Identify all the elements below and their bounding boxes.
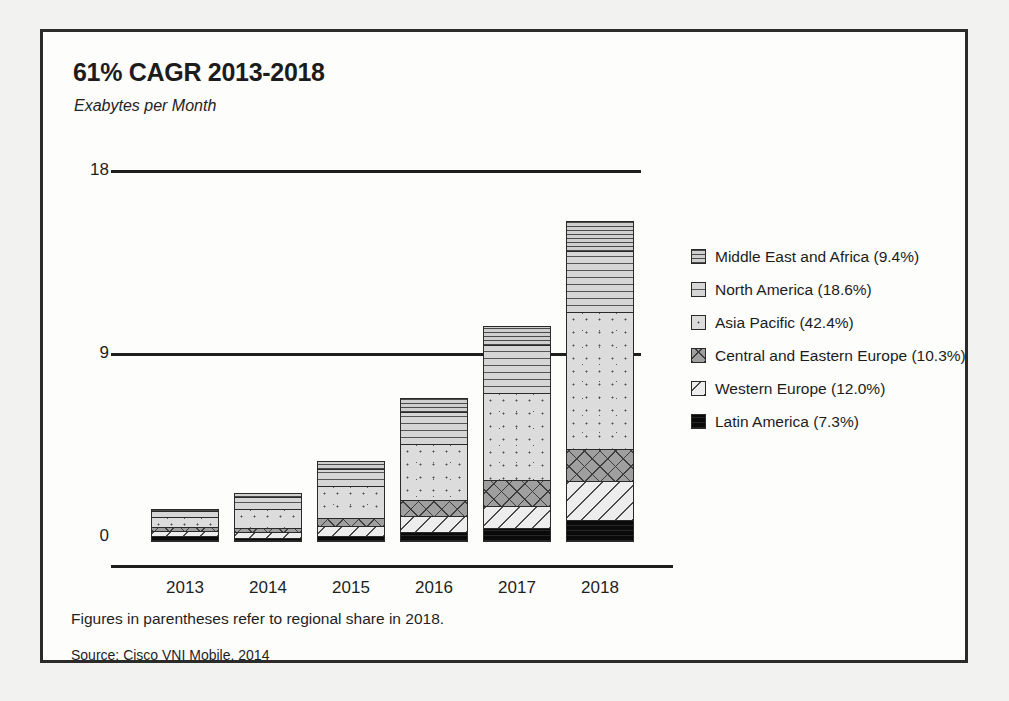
legend-swatch-solid-black-icon xyxy=(691,414,706,429)
bar-segment-north-america-2016 xyxy=(401,413,467,445)
legend-swatch-dots-icon xyxy=(691,315,706,330)
bar-segment-north-america-2015 xyxy=(318,470,384,488)
x-axis-tick-2015: 2015 xyxy=(317,578,385,598)
bar-segment-middle-east-and-africa-2016 xyxy=(401,399,467,413)
legend-swatch-diagonal-lines-icon xyxy=(691,381,706,396)
source-line: Source: Cisco VNI Mobile, 2014 xyxy=(71,647,269,663)
bar-segment-middle-east-and-africa-2015 xyxy=(318,462,384,470)
x-axis-tick-2017: 2017 xyxy=(483,578,551,598)
bar-2015[interactable] xyxy=(317,461,385,542)
x-axis-tick-2016: 2016 xyxy=(400,578,468,598)
bar-segment-middle-east-and-africa-2018 xyxy=(567,222,633,252)
bar-segment-western-europe-2016 xyxy=(401,517,467,533)
bar-segment-north-america-2018 xyxy=(567,252,633,313)
bar-2017[interactable] xyxy=(483,326,551,542)
bar-segment-north-america-2014 xyxy=(235,498,301,510)
y-axis-tick-18: 18 xyxy=(63,160,109,180)
legend-item-middle-east-and-africa[interactable]: Middle East and Africa (9.4%) xyxy=(691,240,966,273)
bar-segment-western-europe-2017 xyxy=(484,507,550,529)
bar-segment-asia-pacific-2017 xyxy=(484,394,550,481)
bar-segment-western-europe-2018 xyxy=(567,482,633,520)
footnote: Figures in parentheses refer to regional… xyxy=(71,610,444,628)
bar-segment-western-europe-2015 xyxy=(318,527,384,537)
bar-segment-asia-pacific-2018 xyxy=(567,313,633,450)
bar-segment-latin-america-2015 xyxy=(318,537,384,541)
legend-swatch-crosshatch-icon xyxy=(691,348,706,363)
legend-swatch-dashed-rows-icon xyxy=(691,282,706,297)
bar-segment-north-america-2017 xyxy=(484,346,550,394)
x-axis-tick-2014: 2014 xyxy=(234,578,302,598)
plot-area: 18 9 0 xyxy=(111,142,671,542)
bar-segment-asia-pacific-2013 xyxy=(152,518,218,528)
x-axis-tick-2018: 2018 xyxy=(566,578,634,598)
bar-segment-central-and-eastern-europe-2017 xyxy=(484,481,550,507)
chart-legend: Middle East and Africa (9.4%)North Ameri… xyxy=(691,240,966,438)
legend-item-western-europe[interactable]: Western Europe (12.0%) xyxy=(691,372,966,405)
y-axis-tick-0: 0 xyxy=(63,526,109,546)
bar-segment-asia-pacific-2015 xyxy=(318,487,384,519)
bar-2018[interactable] xyxy=(566,221,634,542)
bar-group xyxy=(151,142,641,542)
chart-frame: 61% CAGR 2013-2018 Exabytes per Month 18… xyxy=(40,29,968,663)
bar-2014[interactable] xyxy=(234,493,302,542)
bar-segment-middle-east-and-africa-2017 xyxy=(484,327,550,345)
bar-segment-asia-pacific-2016 xyxy=(401,445,467,501)
legend-item-latin-america[interactable]: Latin America (7.3%) xyxy=(691,405,966,438)
bar-segment-central-and-eastern-europe-2016 xyxy=(401,501,467,517)
legend-label: Asia Pacific (42.4%) xyxy=(715,314,854,332)
page-title: 61% CAGR 2013-2018 xyxy=(73,58,325,87)
bar-segment-asia-pacific-2014 xyxy=(235,510,301,529)
bar-segment-latin-america-2017 xyxy=(484,529,550,541)
legend-label: North America (18.6%) xyxy=(715,281,872,299)
bar-2016[interactable] xyxy=(400,398,468,542)
bar-segment-latin-america-2018 xyxy=(567,521,633,541)
legend-label: Western Europe (12.0%) xyxy=(715,380,885,398)
legend-item-central-and-eastern-europe[interactable]: Central and Eastern Europe (10.3%) xyxy=(691,339,966,372)
legend-label: Middle East and Africa (9.4%) xyxy=(715,248,919,266)
bar-segment-central-and-eastern-europe-2018 xyxy=(567,450,633,482)
bar-segment-central-and-eastern-europe-2015 xyxy=(318,519,384,527)
legend-swatch-horizontal-lines-icon xyxy=(691,249,706,264)
legend-label: Latin America (7.3%) xyxy=(715,413,859,431)
x-axis-tick-2013: 2013 xyxy=(151,578,219,598)
legend-item-north-america[interactable]: North America (18.6%) xyxy=(691,273,966,306)
x-axis-line xyxy=(111,565,673,568)
bar-segment-latin-america-2016 xyxy=(401,533,467,541)
chart-subtitle: Exabytes per Month xyxy=(74,97,216,115)
legend-item-asia-pacific[interactable]: Asia Pacific (42.4%) xyxy=(691,306,966,339)
bar-2013[interactable] xyxy=(151,509,219,542)
bar-segment-latin-america-2013 xyxy=(152,537,218,541)
y-axis-tick-9: 9 xyxy=(63,343,109,363)
legend-label: Central and Eastern Europe (10.3%) xyxy=(715,347,966,365)
bar-segment-latin-america-2014 xyxy=(235,539,301,541)
